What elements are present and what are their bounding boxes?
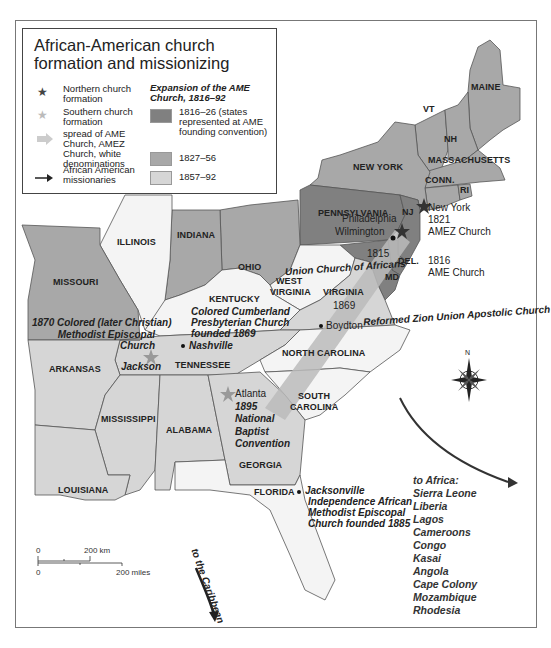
label-south-carolina-1: SOUTH	[298, 391, 330, 401]
legend-period-1: 1816–26 (states represented at AME found…	[179, 107, 271, 137]
label-south-carolina-2: CAROLINA	[290, 402, 338, 412]
label-kentucky: KENTUCKY	[209, 294, 260, 304]
broad-arrow-icon	[37, 131, 53, 143]
annot-atlanta: Atlanta1895NationalBaptistConvention	[235, 388, 290, 451]
legend-period-3: 1857–92	[179, 172, 216, 182]
annot-wilmington: Wilmington	[335, 226, 384, 238]
label-florida: FLORIDA	[254, 487, 295, 497]
label-indiana: INDIANA	[177, 230, 215, 240]
annot-nashville: Nashville	[189, 340, 233, 352]
state-maine	[468, 40, 520, 150]
label-alabama: ALABAMA	[166, 425, 212, 435]
annot-jackson: Jackson	[121, 361, 161, 373]
annot-boydton-year: 1869	[333, 300, 355, 312]
label-georgia: GEORGIA	[239, 460, 282, 470]
annot-philadelphia: Philadelphia	[342, 213, 397, 225]
label-north-carolina: NORTH CAROLINA	[282, 348, 365, 358]
label-louisiana: LOUISIANA	[58, 485, 108, 495]
label-tennessee: TENNESSEE	[175, 360, 230, 370]
light-star-icon: ★	[37, 108, 53, 120]
label-arkansas: ARKANSAS	[49, 364, 101, 374]
legend-period-2: 1827–56	[179, 153, 216, 163]
label-ri: RI	[460, 185, 469, 195]
label-maine: MAINE	[471, 82, 501, 92]
label-west-virginia-2: VIRGINIA	[270, 287, 311, 297]
label-missouri: MISSOURI	[53, 277, 98, 287]
label-md: MD	[385, 272, 399, 282]
compass-rose-icon	[451, 358, 487, 402]
swatch-1857-92	[150, 171, 172, 185]
label-ohio: OHIO	[238, 262, 261, 272]
dark-star-icon: ★	[37, 85, 53, 97]
label-massachusetts: MASSACHUSETTS	[428, 155, 510, 165]
africa-list: to Africa: Sierra Leone Liberia Lagos Ca…	[413, 474, 477, 617]
expansion-heading: Expansion of the AME Church, 1816–92	[150, 83, 260, 103]
label-illinois: ILLINOIS	[117, 237, 156, 247]
compass-north-label: N	[465, 347, 470, 359]
africa-heading: to Africa:	[413, 474, 477, 487]
label-virginia: VIRGINIA	[323, 287, 364, 297]
annot-cumberland: Colored CumberlandPresbyterian Churchfou…	[191, 306, 290, 339]
legend-spread: spread of AME Church, AMEZ Church, white…	[63, 129, 145, 169]
swatch-1816-26	[150, 109, 172, 123]
annot-cme: 1870 Colored (later Christian)Methodist …	[32, 317, 155, 352]
swatch-1827-56	[150, 152, 172, 166]
scale-bar	[38, 556, 122, 566]
label-nj: NJ	[402, 207, 414, 217]
legend: African-American church formation and mi…	[22, 28, 277, 194]
annot-new-york: New York1821AMEZ Church	[428, 202, 491, 238]
label-nh: NH	[444, 134, 457, 144]
annot-boydton: Boydton	[326, 320, 363, 332]
label-conn: CONN.	[425, 175, 455, 185]
annot-jacksonville: Jacksonville Independence African Method…	[305, 485, 412, 529]
map-title: African-American church formation and mi…	[34, 36, 269, 72]
label-vt: VT	[423, 104, 435, 114]
annot-ame-1816: 1816AME Church	[428, 255, 485, 279]
africa-arrow	[400, 398, 508, 482]
thin-arrow-icon	[35, 168, 51, 180]
label-new-york: NEW YORK	[353, 162, 403, 172]
label-mississippi: MISSISSIPPI	[101, 414, 156, 424]
legend-missionaries: African American missionaries	[63, 165, 145, 185]
legend-southern: Southern church formation	[63, 107, 143, 127]
legend-northern: Northern church formation	[63, 84, 143, 104]
